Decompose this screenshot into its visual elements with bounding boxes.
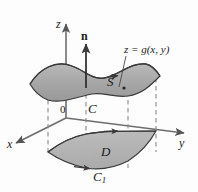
y-axis-label: y [179, 137, 184, 149]
x-axis-label: x [7, 138, 12, 150]
z-axis-label: z [56, 18, 61, 30]
diagram-canvas [0, 0, 198, 192]
x-axis [16, 118, 66, 143]
region-D-label: D [101, 145, 110, 158]
surface-S-fill [30, 64, 160, 101]
surface-tangency-dot [122, 87, 125, 90]
surface-stokes-diagram: z n x y 0 S C D C1 z = g(x, y) [0, 0, 198, 192]
origin-label: 0 [60, 104, 66, 115]
surface-S-group [30, 64, 160, 101]
curve-C-label: C [88, 102, 97, 115]
curve-C1-base: C [93, 169, 102, 184]
surface-label: S [107, 75, 114, 88]
surface-equation-label: z = g(x, y) [124, 44, 169, 55]
normal-vector-label: n [81, 30, 88, 42]
curve-C1-label: C1 [93, 170, 106, 185]
curve-C1-subscript: 1 [102, 175, 106, 185]
